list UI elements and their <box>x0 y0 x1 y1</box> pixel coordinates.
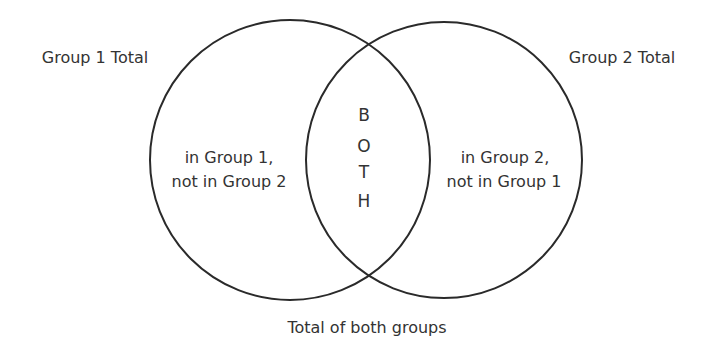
both-label-letter-b: B <box>358 105 370 125</box>
venn-diagram: Group 1 Total Group 2 Total in Group 1, … <box>0 0 715 358</box>
group-1-total-label: Group 1 Total <box>42 48 148 67</box>
group-1-only-label-line1: in Group 1, <box>185 148 274 167</box>
group-2-only-label-line1: in Group 2, <box>461 148 550 167</box>
group-2-total-label: Group 2 Total <box>569 48 675 67</box>
both-label-letter-o: O <box>357 136 370 156</box>
group-2-only-label-line2: not in Group 1 <box>447 172 562 191</box>
both-label-letter-h: H <box>358 191 371 211</box>
total-both-groups-label: Total of both groups <box>286 318 446 337</box>
group-1-only-label-line2: not in Group 2 <box>172 172 287 191</box>
both-label-letter-t: T <box>358 162 370 182</box>
